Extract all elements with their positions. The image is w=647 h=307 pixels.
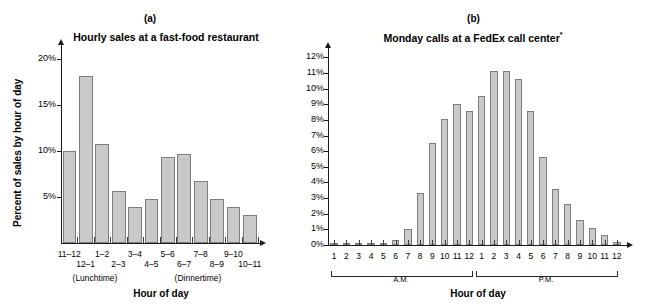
panel-a-y-axis	[61, 45, 62, 243]
panel-a-annotation-lunchtime: (Lunchtime)	[55, 273, 135, 283]
panel-b-y-tick-label: 3%	[291, 193, 324, 202]
panel-b-y-tick-label: 7%	[291, 131, 324, 140]
panel-a-x-category-label: 11–12	[52, 250, 86, 259]
panel-b-bar	[478, 96, 485, 245]
panel-b-y-tick-label: 1%	[291, 224, 324, 233]
panel-b-bar	[417, 193, 424, 245]
panel-b-plot-area: 0%1%2%3%4%5%6%7%8%9%10%11%12%12345678910…	[300, 0, 647, 307]
panel-a-x-category-label: 8–9	[200, 260, 234, 269]
panel-a-x-category-label: 9–10	[216, 250, 250, 259]
panel-a-x-category-label: 6–7	[167, 260, 201, 269]
panel-a-x-axis-arrow	[260, 240, 266, 246]
panel-a-x-category-label: 4–5	[134, 260, 168, 269]
panel-b: (b) Monday calls at a FedEx call center*…	[300, 0, 647, 307]
panel-a: (a) Hourly sales at a fast-food restaura…	[0, 0, 300, 307]
panel-a-y-tick-label: 15%	[20, 100, 56, 109]
panel-b-bar	[490, 71, 497, 245]
panel-a-bar	[177, 154, 191, 243]
panel-a-bar	[63, 151, 77, 243]
panel-a-x-axis-title: Hour of day	[61, 288, 261, 299]
panel-b-bar	[515, 79, 522, 245]
panel-b-y-tick-label: 4%	[291, 177, 324, 186]
panel-a-x-category-label: 1–2	[85, 250, 119, 259]
panel-a-bar	[145, 199, 159, 243]
panel-b-y-tick-label: 2%	[291, 209, 324, 218]
panel-b-x-axis	[328, 245, 628, 246]
panel-b-y-tick-label: 11%	[291, 68, 324, 77]
panel-b-y-tick-label: 10%	[291, 84, 324, 93]
panel-b-bar	[429, 143, 436, 245]
panel-b-bar	[564, 204, 571, 245]
panel-b-x-axis-title: Hour of day	[328, 288, 628, 299]
panel-a-bar	[79, 76, 93, 243]
panel-a-x-category-label: 10–11	[233, 260, 267, 269]
panel-b-x-category-label: 12	[608, 252, 626, 261]
panel-a-x-category-label: 3–4	[118, 250, 152, 259]
panel-a-bar	[194, 181, 208, 243]
panel-b-bar	[453, 104, 460, 246]
panel-b-bar	[441, 119, 448, 245]
panel-b-bar	[552, 189, 559, 245]
panel-a-y-tick-label: 5%	[20, 192, 56, 201]
panel-b-y-axis	[328, 48, 329, 245]
panel-b-y-tick-label: 6%	[291, 146, 324, 155]
panel-a-plot-area: 5%10%15%20%11–1212–11–22–33–44–55–66–77–…	[0, 0, 300, 307]
panel-b-x-axis-arrow	[627, 242, 633, 248]
panel-a-x-category-label: 7–8	[184, 250, 218, 259]
panel-a-x-category-label: 12–1	[69, 260, 103, 269]
panel-a-bar	[227, 207, 241, 243]
panel-a-bar	[210, 199, 224, 243]
panel-b-y-tick-label: 0%	[291, 240, 324, 249]
panel-a-bar	[128, 207, 142, 243]
panel-b-am-label: A.M.	[331, 275, 471, 284]
panel-b-bar	[539, 157, 546, 245]
panel-a-bar	[243, 215, 257, 243]
panel-a-x-axis	[61, 243, 261, 244]
panel-a-x-category-label: 2–3	[101, 260, 135, 269]
panel-b-bar	[527, 111, 534, 245]
panel-b-y-tick-label: 5%	[291, 162, 324, 171]
panel-a-y-tick-label: 10%	[20, 146, 56, 155]
panel-b-y-tick-label: 8%	[291, 115, 324, 124]
panel-a-y-tick-label: 20%	[20, 54, 56, 63]
panel-b-y-axis-arrow	[325, 42, 331, 48]
panel-a-bar	[95, 144, 109, 243]
panel-b-y-tick-label: 12%	[291, 52, 324, 61]
panel-a-annotation-dinnertime: (Dinnertime)	[158, 273, 238, 283]
panel-b-bar	[503, 71, 510, 245]
panel-b-y-tick-label: 9%	[291, 99, 324, 108]
panel-a-y-axis-arrow	[58, 39, 64, 45]
panel-a-x-category-label: 5–6	[151, 250, 185, 259]
panel-a-bar	[112, 191, 126, 243]
panel-b-bar	[466, 111, 473, 245]
panel-a-bar	[161, 157, 175, 243]
panel-b-pm-label: P.M.	[476, 275, 616, 284]
